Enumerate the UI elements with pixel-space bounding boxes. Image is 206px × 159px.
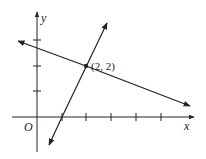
y-axis-label: y: [40, 11, 47, 25]
intersection-point: [84, 64, 88, 68]
shallow-line-right: [86, 66, 190, 106]
shallow-line: [18, 41, 86, 66]
x-axis-label: x: [183, 119, 190, 133]
coordinate-plane: (2, 2) y x O: [0, 0, 206, 159]
intersection-label: (2, 2): [91, 60, 115, 73]
steep-line: [49, 117, 62, 145]
origin-label: O: [24, 120, 33, 134]
